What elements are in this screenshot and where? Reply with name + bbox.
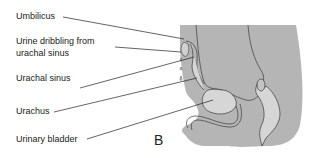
panel-letter: B [154, 132, 163, 148]
rectum-opening [257, 79, 265, 91]
leader-urachal-sinus [80, 57, 194, 88]
leader-urine-dribbling [115, 47, 181, 52]
label-umbilicus: Umbilicus [16, 11, 55, 22]
label-urachal-sinus: Urachal sinus [16, 73, 71, 84]
leader-urachus [54, 78, 197, 112]
urine-drop-3 [180, 76, 182, 81]
label-urachus: Urachus [16, 106, 50, 117]
body-silhouette [180, 25, 303, 147]
label-urinary-bladder: Urinary bladder [16, 134, 78, 145]
label-urine-dribbling-line2: urachal sinus [16, 48, 69, 59]
label-urine-dribbling-line1: Urine dribbling from [16, 36, 95, 47]
umbilicus-shape [181, 42, 189, 56]
urine-drop-2 [180, 67, 182, 70]
